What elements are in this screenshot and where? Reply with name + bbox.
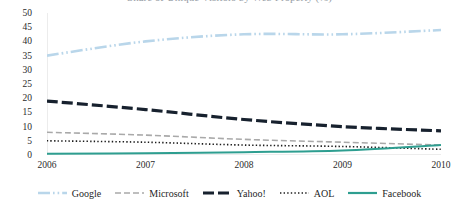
legend-item-microsoft[interactable]: Microsoft (115, 188, 188, 199)
legend-swatch-icon (203, 188, 232, 198)
y-tick-label: 20 (8, 93, 32, 103)
x-tick-label: 2010 (417, 160, 459, 170)
y-tick-label: 35 (8, 51, 32, 61)
series-canvas (47, 13, 441, 155)
legend-item-yahoo[interactable]: Yahoo! (203, 188, 266, 199)
y-tick-label: 5 (8, 136, 32, 146)
x-tick-label: 2006 (23, 160, 71, 170)
legend-swatch-icon (38, 188, 67, 198)
x-tick-label: 2007 (122, 160, 170, 170)
legend-swatch-icon (280, 188, 309, 198)
legend-label: Microsoft (149, 188, 188, 199)
y-axis: 50454035302520151050 (4, 0, 32, 160)
legend-label: Google (72, 188, 101, 199)
x-axis: 20062007200820092010 (47, 160, 441, 176)
y-tick-label: 10 (8, 122, 32, 132)
legend-item-facebook[interactable]: Facebook (348, 188, 421, 199)
y-tick-label: 25 (8, 79, 32, 89)
legend-label: Facebook (382, 188, 421, 199)
y-tick-label: 0 (8, 150, 32, 160)
chart-title: Share of Unique Visitors by Web Property… (0, 0, 459, 3)
legend-label: Yahoo! (237, 188, 266, 199)
x-tick-label: 2009 (319, 160, 367, 170)
legend-swatch-icon (115, 188, 144, 198)
y-tick-label: 50 (8, 8, 32, 18)
y-tick-label: 15 (8, 107, 32, 117)
series-line-microsoft (47, 132, 441, 145)
y-tick-label: 45 (8, 22, 32, 32)
series-line-yahoo (47, 101, 441, 131)
legend-item-google[interactable]: Google (38, 188, 101, 199)
legend-item-aol[interactable]: AOL (280, 188, 335, 199)
legend-swatch-icon (348, 188, 377, 198)
plot-area (47, 13, 441, 155)
y-tick-label: 30 (8, 65, 32, 75)
series-line-facebook (47, 145, 441, 154)
x-tick-label: 2008 (220, 160, 268, 170)
y-tick-label: 40 (8, 36, 32, 46)
legend-label: AOL (314, 188, 335, 199)
chart-legend: GoogleMicrosoftYahoo!AOLFacebook (0, 182, 459, 204)
line-chart: Share of Unique Visitors by Web Property… (0, 0, 459, 207)
series-line-google (47, 30, 441, 56)
